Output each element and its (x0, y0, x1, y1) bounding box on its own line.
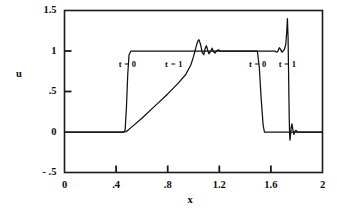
y-tick-label: .5 (49, 86, 57, 97)
y-axis-title: u (16, 69, 22, 80)
x-tick-marks (116, 166, 271, 173)
y-tick-label: 1 (51, 46, 56, 57)
x-tick-label: 0 (51, 180, 79, 191)
series-line-t1 (65, 19, 323, 141)
curve-annotation: t = 1 (165, 60, 183, 69)
x-tick-label: .8 (154, 180, 182, 191)
x-axis-title: x (188, 195, 193, 206)
x-tick-label: .4 (102, 180, 130, 191)
curve-annotation: t = 0 (119, 60, 137, 69)
y-tick-label: 0 (51, 127, 56, 138)
x-tick-label: 1.2 (205, 180, 233, 191)
y-tick-marks (65, 51, 72, 92)
figure: 1.5 1 .5 0 - .5 0 .4 .8 1.2 1.6 2 u x t … (0, 0, 337, 210)
y-tick-label: 1.5 (43, 5, 56, 16)
curve-annotation: t = 1 (279, 60, 297, 69)
x-tick-label: 2 (309, 180, 337, 191)
x-tick-label: 1.6 (257, 180, 285, 191)
plot-frame (65, 11, 323, 173)
curve-annotation: t = 0 (249, 60, 267, 69)
plot-border (65, 11, 323, 173)
data-series-layer (65, 19, 323, 141)
y-tick-label: - .5 (43, 167, 57, 178)
